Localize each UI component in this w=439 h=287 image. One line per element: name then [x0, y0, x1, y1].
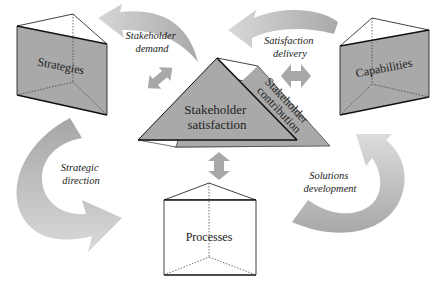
processes-prism	[164, 183, 256, 275]
double-arrow-icon	[208, 152, 230, 180]
satisfaction-delivery-label: Satisfaction delivery	[264, 35, 316, 59]
double-arrow-icon	[142, 61, 178, 95]
solutions-development-label: Solutions development	[303, 170, 357, 194]
strategic-direction-label: Strategic direction	[61, 162, 102, 186]
performance-prism-diagram: Strategies Capabilities Stakeholder sati…	[0, 0, 439, 287]
stakeholder-satisfaction-label: Stakeholder satisfaction	[184, 102, 249, 132]
stakeholder-demand-label: Stakeholder demand	[126, 30, 179, 54]
double-arrow-icon	[281, 64, 311, 88]
processes-label: Processes	[186, 230, 233, 244]
